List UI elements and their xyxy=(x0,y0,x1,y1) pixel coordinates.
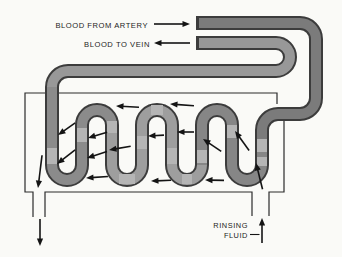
flow-arrow-mid-4 xyxy=(86,149,108,161)
flow-arrow-bottom-1 xyxy=(86,173,108,181)
blood-to-vein-label: BLOOD TO VEIN xyxy=(84,40,150,49)
dialysis-coil-diagram: BLOOD FROM ARTERY BLOOD TO VEIN RINSING … xyxy=(0,0,342,257)
artery-label-arrow xyxy=(154,21,190,27)
tank-outlet-arrow xyxy=(35,155,45,189)
rinsing-fluid-label-line1: RINSING xyxy=(213,221,248,230)
flow-arrow-mid-6 xyxy=(148,132,164,139)
flow-arrow-mid-1 xyxy=(56,120,77,137)
flow-arrow-top-2 xyxy=(170,101,194,109)
vein-label-arrow xyxy=(154,40,190,46)
flow-arrow-mid-7 xyxy=(177,129,194,135)
tank-wall-right xyxy=(269,121,284,216)
coil-segment-middle xyxy=(112,110,202,180)
flow-arrow-bottom-3 xyxy=(205,177,224,184)
flow-arrow-mid-2 xyxy=(87,129,108,141)
diagram-canvas: BLOOD FROM ARTERY BLOOD TO VEIN RINSING … xyxy=(0,0,342,257)
tank-wall-bottom xyxy=(45,192,252,217)
rinsing-fluid-label-line2: FLUID xyxy=(224,231,248,240)
rinsing-outlet-arrow xyxy=(37,219,43,246)
rinsing-inlet-arrow xyxy=(259,218,265,243)
blood-from-artery-label: BLOOD FROM ARTERY xyxy=(55,21,148,30)
flow-arrow-bottom-2 xyxy=(151,177,171,184)
flow-arrow-top-1 xyxy=(116,103,139,110)
